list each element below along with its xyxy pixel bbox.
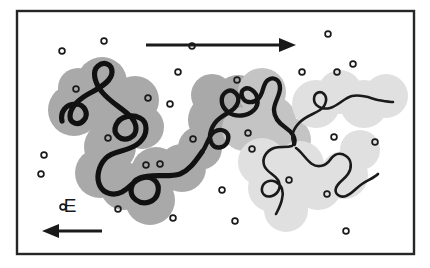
electric-field-label: E [64,195,77,216]
gel-blob [364,74,408,118]
gel-blob [340,130,380,170]
figure-root: E [0,0,430,268]
polymer-electrophoresis-diagram: E [0,0,430,268]
